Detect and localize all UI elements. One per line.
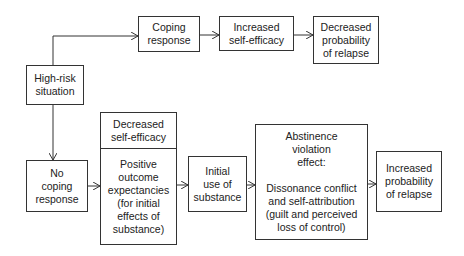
node-initial-use-of-substance: Initialuse ofsubstance bbox=[188, 156, 247, 212]
node-label: Copingresponse bbox=[147, 21, 190, 47]
arrow-highrisk-to-coping bbox=[53, 36, 138, 65]
node-label: Initialuse ofsubstance bbox=[194, 165, 242, 204]
node-label: Abstinenceviolationeffect: Dissonance co… bbox=[266, 130, 358, 234]
node-decreased-probability-relapse: Decreasedprobabilityof relapse bbox=[313, 16, 379, 64]
node-label: High-risksituation bbox=[34, 72, 75, 98]
node-label: Increasedself-efficacy bbox=[229, 21, 284, 47]
node-coping-response: Copingresponse bbox=[138, 16, 200, 52]
node-abstinence-violation-effect: Abstinenceviolationeffect: Dissonance co… bbox=[255, 124, 368, 240]
node-label: Increasedprobabilityof relapse bbox=[385, 162, 433, 201]
node-label-decreased-self-efficacy: Decreasedself-efficacy bbox=[101, 118, 176, 144]
node-label-positive-outcome: Positiveoutcomeexpectancies(for initiale… bbox=[108, 158, 169, 236]
node-decreased-efficacy-positive-outcome: Decreasedself-efficacy Positiveoutcomeex… bbox=[100, 112, 177, 245]
node-label: Decreasedprobabilityof relapse bbox=[321, 21, 372, 60]
node-increased-probability-relapse: Increasedprobabilityof relapse bbox=[376, 151, 442, 212]
node-no-coping-response: Nocopingresponse bbox=[26, 160, 88, 212]
node-increased-self-efficacy: Increasedself-efficacy bbox=[219, 16, 294, 51]
node-label: Nocopingresponse bbox=[35, 167, 78, 206]
node-high-risk-situation: High-risksituation bbox=[26, 65, 84, 105]
